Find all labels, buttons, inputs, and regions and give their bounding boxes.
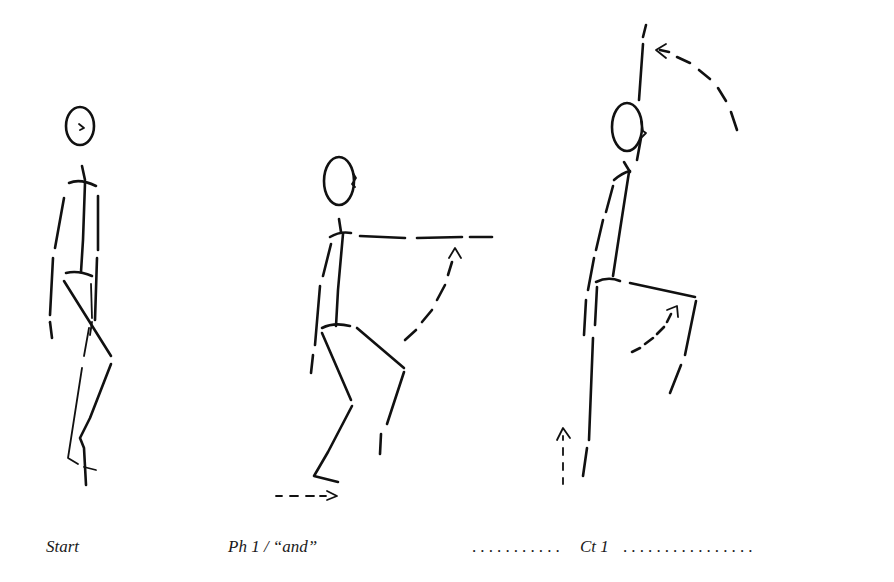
head-icon (66, 107, 94, 145)
count-dots-leading: ........... (472, 537, 564, 557)
front-thigh (357, 328, 404, 368)
count-dots-trailing: ................ (623, 537, 757, 557)
head-icon (324, 157, 354, 205)
face-mark (79, 124, 84, 130)
arrow-up-icon (449, 248, 461, 258)
torso (336, 234, 343, 326)
label-count-1: Ct 1 (580, 537, 609, 557)
figure-count-1 (557, 25, 737, 484)
front-thigh (64, 281, 111, 356)
back-shin (314, 406, 352, 482)
arrow-diagonal-icon (667, 306, 678, 317)
hips (66, 272, 92, 276)
back-thigh (322, 333, 351, 400)
torso (81, 183, 85, 272)
label-phase-1: Ph 1 / “and” (228, 537, 317, 557)
arrow-right-icon (327, 491, 337, 500)
label-start: Start (46, 537, 79, 557)
head-icon (612, 103, 642, 151)
stick-figure-drawings (0, 0, 894, 582)
figure-phase-1 (276, 157, 492, 500)
shoulders (330, 233, 351, 238)
torso (613, 172, 629, 276)
hips (596, 279, 620, 282)
movement-diagram: Start Ph 1 / “and” ........... Ct 1 ....… (0, 0, 894, 582)
raised-thigh (630, 283, 695, 297)
figure-start (50, 107, 111, 485)
shoulders (69, 181, 96, 186)
